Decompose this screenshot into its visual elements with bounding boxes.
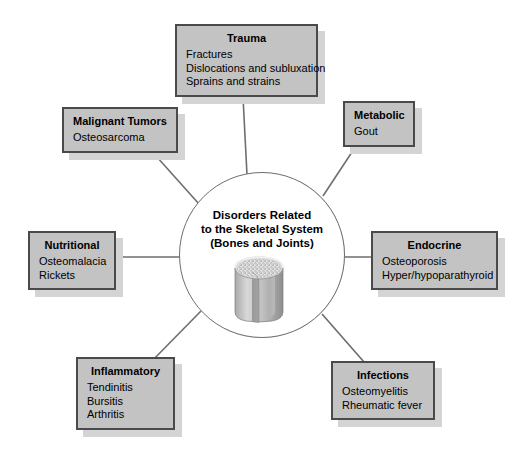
node-trauma-item: Sprains and strains [186,75,307,89]
node-nutritional-item: Osteomalacia [39,255,105,269]
node-malignant-tumors-title: Malignant Tumors [73,114,167,128]
node-infections-item: Rheumatic fever [342,399,424,413]
node-malignant-tumors-item: Osteosarcoma [73,131,167,145]
center-title-line-2: to the Skeletal System [179,222,345,236]
node-nutritional[interactable]: Nutritional Osteomalacia Rickets [28,231,116,290]
node-inflammatory-title: Inflammatory [87,364,164,378]
node-inflammatory-item: Tendinitis [87,381,164,395]
node-trauma-title: Trauma [186,31,307,45]
node-metabolic-title: Metabolic [354,108,404,122]
node-endocrine-item: Hyper/hypoparathyroid [382,269,487,283]
node-inflammatory[interactable]: Inflammatory Tendinitis Bursitis Arthrit… [76,357,175,430]
center-title-line-3: (Bones and Joints) [179,236,345,250]
node-endocrine-title: Endocrine [382,238,487,252]
diagram-canvas: Disorders Related to the Skeletal System… [0,0,517,452]
node-infections-item: Osteomyelitis [342,385,424,399]
connector-trauma [243,97,247,175]
node-endocrine[interactable]: Endocrine Osteoporosis Hyper/hypoparathy… [371,231,498,290]
node-infections[interactable]: Infections Osteomyelitis Rheumatic fever [331,361,435,420]
node-trauma-item: Fractures [186,48,307,62]
node-trauma-item: Dislocations and subluxation [186,62,307,76]
node-metabolic[interactable]: Metabolic Gout [343,101,415,147]
node-inflammatory-item: Arthritis [87,408,164,422]
center-title: Disorders Related to the Skeletal System… [179,208,345,250]
node-trauma[interactable]: Trauma Fractures Dislocations and sublux… [175,24,318,97]
connector-metabolic [323,152,352,196]
node-nutritional-title: Nutritional [39,238,105,252]
connector-malignant-tumors [148,147,199,204]
connector-infections [322,314,364,362]
node-endocrine-item: Osteoporosis [382,255,487,269]
node-inflammatory-item: Bursitis [87,395,164,409]
node-malignant-tumors[interactable]: Malignant Tumors Osteosarcoma [62,107,178,153]
node-infections-title: Infections [342,368,424,382]
center-title-line-1: Disorders Related [179,208,345,222]
bone-cross-section-icon [228,252,290,324]
node-nutritional-item: Rickets [39,269,105,283]
node-metabolic-item: Gout [354,125,404,139]
